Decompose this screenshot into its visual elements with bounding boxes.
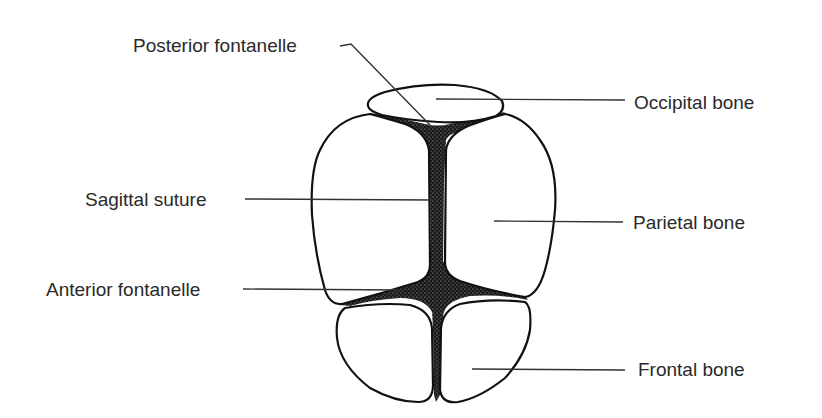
label-sagittal-suture: Sagittal suture <box>85 190 206 209</box>
occipital-bone-shape <box>368 85 503 123</box>
anterior-fontanelle-leader <box>243 289 402 290</box>
frontal-bone-leader <box>472 369 625 370</box>
sagittal-suture-leader <box>245 199 433 200</box>
left-frontal-bone <box>337 304 433 402</box>
right-parietal-bone <box>445 114 555 297</box>
occipital-bone-leader <box>436 99 625 100</box>
right-frontal-bone <box>440 300 530 402</box>
left-parietal-bone <box>312 114 430 304</box>
label-frontal-bone: Frontal bone <box>638 360 745 379</box>
parietal-bone-leader <box>494 221 623 222</box>
label-parietal-bone: Parietal bone <box>633 213 745 232</box>
label-occipital-bone: Occipital bone <box>634 93 754 112</box>
label-posterior-fontanelle: Posterior fontanelle <box>133 36 297 55</box>
label-anterior-fontanelle: Anterior fontanelle <box>46 280 200 299</box>
